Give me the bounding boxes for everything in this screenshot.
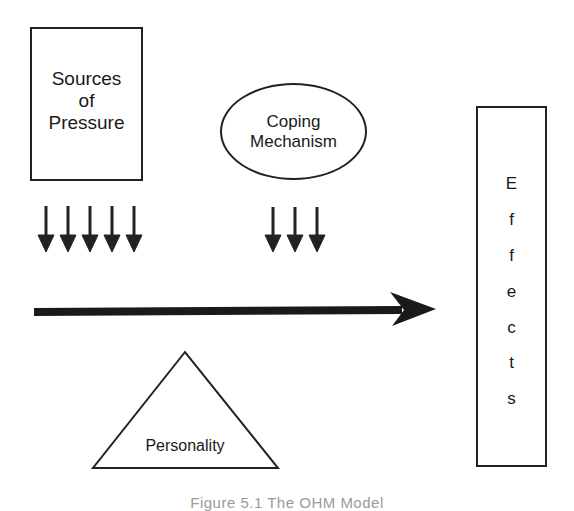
effects-letter: E: [478, 174, 545, 194]
down-arrow-icon: [82, 206, 98, 252]
sources-of-pressure-box: Sources of Pressure: [30, 27, 143, 181]
down-arrow-icon: [265, 207, 281, 252]
coping-down-arrows: [265, 207, 325, 252]
effects-letter: s: [478, 389, 545, 409]
main-right-arrow-icon: [34, 292, 436, 326]
down-arrow-icon: [287, 207, 303, 252]
coping-mechanism-label: Coping Mechanism: [250, 112, 337, 152]
coping-mechanism-ellipse: Coping Mechanism: [220, 83, 367, 180]
effects-letter: e: [478, 282, 545, 302]
sources-down-arrows: [38, 206, 142, 252]
sources-of-pressure-label: Sources of Pressure: [48, 68, 124, 134]
effects-letter: c: [478, 318, 545, 338]
effects-box: E f f e c t s: [476, 106, 547, 467]
down-arrow-icon: [60, 206, 76, 252]
personality-label: Personality: [120, 437, 250, 455]
down-arrow-icon: [38, 206, 54, 252]
figure-caption: Figure 5.1 The OHM Model: [0, 494, 574, 511]
effects-letter: t: [478, 353, 545, 373]
effects-letter: f: [478, 246, 545, 266]
down-arrow-icon: [126, 206, 142, 252]
down-arrow-icon: [309, 207, 325, 252]
effects-letter: f: [478, 210, 545, 230]
down-arrow-icon: [104, 206, 120, 252]
